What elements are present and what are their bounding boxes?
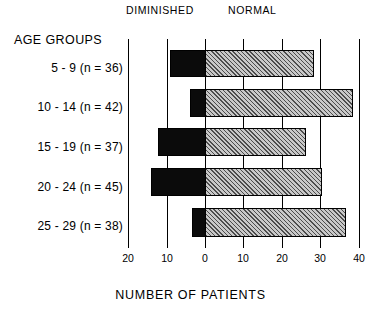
tickstub-20-r3 bbox=[282, 156, 283, 168]
tickstub-10-r3 bbox=[243, 156, 244, 168]
bar-normal-20-24 bbox=[205, 168, 322, 196]
x-tick-label-30: 30 bbox=[308, 252, 332, 264]
bar-diminished-5-9 bbox=[170, 50, 206, 77]
tickstub-10-r4 bbox=[243, 196, 244, 208]
x-tick-label-10: 10 bbox=[231, 252, 255, 264]
x-tick-label-neg20: 20 bbox=[116, 252, 140, 264]
x-tick-label-neg10: 10 bbox=[155, 252, 179, 264]
y-axis-title: AGE GROUPS bbox=[14, 33, 102, 47]
tickstub-10-r1 bbox=[243, 77, 244, 89]
x-axis-title: NUMBER OF PATIENTS bbox=[0, 288, 381, 302]
gridline-40 bbox=[359, 39, 360, 248]
row-label-15-19: 15 - 19 (n = 37) bbox=[37, 140, 123, 154]
column-header-diminished: DIMINISHED bbox=[126, 4, 194, 16]
row-label-5-9: 5 - 9 (n = 36) bbox=[51, 61, 123, 75]
bar-diminished-20-24 bbox=[151, 168, 206, 196]
bar-diminished-15-19 bbox=[158, 128, 206, 156]
bar-normal-25-29 bbox=[205, 208, 346, 237]
tickstub-10-r2 bbox=[243, 117, 244, 128]
bar-normal-15-19 bbox=[205, 128, 306, 156]
chart-canvas: DIMINISHED NORMAL AGE GROUPS 5 - 9 (n = … bbox=[0, 0, 381, 317]
tickstub-20-r4 bbox=[282, 196, 283, 208]
row-label-20-24: 20 - 24 (n = 45) bbox=[37, 180, 123, 194]
x-tick-label-zero: 0 bbox=[193, 252, 217, 264]
tickstub-10-r5 bbox=[243, 237, 244, 248]
gridline-neg20 bbox=[128, 39, 129, 248]
bar-normal-10-14 bbox=[205, 89, 353, 117]
column-header-normal: NORMAL bbox=[228, 4, 277, 16]
row-label-25-29: 25 - 29 (n = 38) bbox=[37, 219, 123, 233]
bar-diminished-25-29 bbox=[192, 208, 206, 237]
tickstub-20-r1 bbox=[282, 77, 283, 89]
tickstub-20-r2 bbox=[282, 117, 283, 128]
bar-normal-5-9 bbox=[205, 50, 314, 77]
tickstub-20-r5 bbox=[282, 237, 283, 248]
row-label-10-14: 10 - 14 (n = 42) bbox=[37, 100, 123, 114]
x-tick-label-20: 20 bbox=[270, 252, 294, 264]
x-tick-label-40: 40 bbox=[347, 252, 371, 264]
bar-diminished-10-14 bbox=[190, 89, 206, 117]
